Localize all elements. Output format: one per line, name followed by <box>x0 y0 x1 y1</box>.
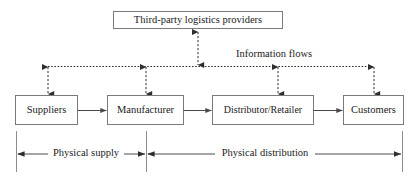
span-physical-distribution: Physical distribution <box>148 147 401 161</box>
manufacturer-label: Manufacturer <box>117 104 175 115</box>
node-manufacturer: Manufacturer <box>108 96 184 125</box>
information-flows-label: Information flows <box>236 48 312 59</box>
span-physical-supply: Physical supply <box>18 147 145 161</box>
third-party-label: Third-party logistics providers <box>134 14 262 25</box>
physical-supply-label: Physical supply <box>53 147 120 158</box>
supply-chain-diagram: Third-party logistics providers Informat… <box>0 0 415 179</box>
node-suppliers: Suppliers <box>16 96 78 125</box>
distributor-label: Distributor/Retailer <box>224 104 303 115</box>
customers-label: Customers <box>351 104 396 115</box>
information-flows-annotation: Information flows <box>228 48 320 61</box>
node-customers: Customers <box>344 96 404 125</box>
physical-distribution-label: Physical distribution <box>222 147 309 158</box>
node-third-party-logistics: Third-party logistics providers <box>114 12 283 29</box>
suppliers-label: Suppliers <box>27 104 67 115</box>
node-distributor-retailer: Distributor/Retailer <box>213 96 314 125</box>
